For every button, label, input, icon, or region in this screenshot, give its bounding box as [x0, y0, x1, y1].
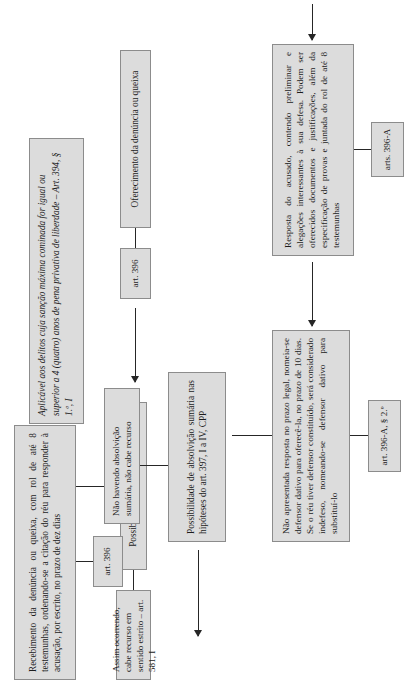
node-absolvicao-sumaria: Possibilidade de absolvição sumária nas … [168, 372, 226, 542]
tag-resposta-nao-apresentada: art. 396-A, § 2.º [368, 400, 401, 472]
arrow-absolvicao-continues [198, 550, 199, 636]
node-resposta-acusado-label: Resposta do acusado, contendo preliminar… [283, 52, 343, 248]
tag-absolvicao-sumaria: Não havendo absolvição su­mária, não cab… [104, 388, 140, 524]
connector-nao-apresentada-tag [350, 435, 368, 436]
arrow-resposta-to-nao-apresentada [312, 262, 313, 326]
flowchart-canvas-lower: Resposta do acusado, contendo preliminar… [0, 0, 420, 694]
tag-resposta-acusado: arts. 396-A [371, 122, 404, 177]
node-absolvicao-sumaria-label: Possibilidade de absolvição sumária nas … [185, 380, 209, 534]
connector-nao-apresentada-to-absolvicao [232, 435, 272, 436]
connector-resposta-tag [354, 149, 371, 150]
tag-resposta-nao-apresentada-label: art. 396-A, § 2.º [379, 407, 391, 466]
connector-absolvicao-tag [140, 465, 168, 466]
tag-resposta-acusado-label: arts. 396-A [382, 129, 394, 170]
node-resposta-acusado: Resposta do acusado, contendo preliminar… [272, 44, 354, 256]
arrow-into-resposta-acusado [312, 4, 313, 40]
node-resposta-nao-apresentada: Não apresentada resposta no prazo legal,… [272, 330, 350, 542]
tag-absolvicao-sumaria-label: Não havendo absolvição su­mária, não cab… [110, 396, 134, 516]
node-resposta-nao-apresentada-label: Não apresentada resposta no prazo legal,… [281, 338, 341, 534]
